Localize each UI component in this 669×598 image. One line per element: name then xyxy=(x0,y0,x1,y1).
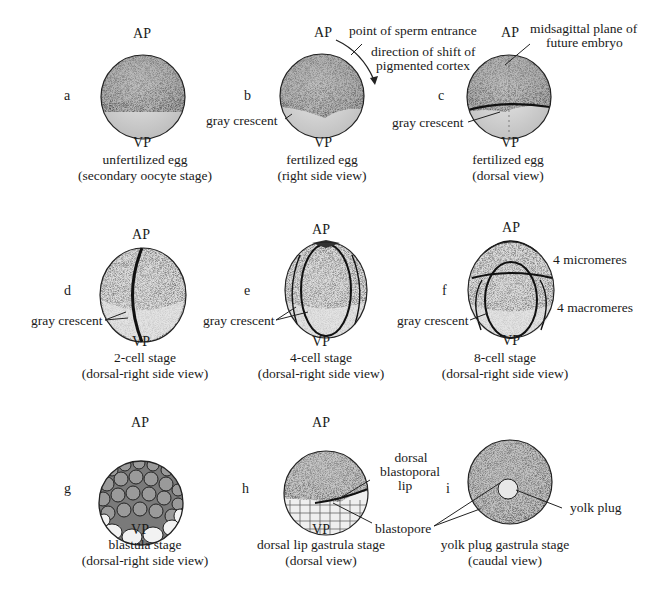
label-micromeres: 4 micromeres xyxy=(553,252,627,267)
label-lip: lip xyxy=(398,478,412,493)
panel-letter-d: d xyxy=(64,283,71,299)
panel-letter-b: b xyxy=(244,88,251,104)
label-shift-direction: direction of shift of xyxy=(371,44,476,59)
panel-letter-c: c xyxy=(438,88,444,104)
egg-unfertilized xyxy=(100,50,190,140)
label-future-embryo: future embryo xyxy=(546,35,623,50)
embryo-8-cell xyxy=(468,241,554,338)
label-yolk-plug: yolk plug xyxy=(570,500,621,515)
caption-g: blastula stage (dorsal-right side view) xyxy=(82,537,209,569)
label-macromeres: 4 macromeres xyxy=(557,300,633,315)
embryo-2-cell xyxy=(100,248,186,342)
animal-pole-label: AP xyxy=(314,25,332,40)
vegetal-pole-label: VP xyxy=(312,334,330,349)
label-dorsal: dorsal xyxy=(387,450,435,465)
panel-letter-h: h xyxy=(242,481,249,497)
caption-d: 2-cell stage (dorsal-right side view) xyxy=(82,350,209,382)
animal-pole-label: AP xyxy=(133,26,151,41)
animal-pole-label: AP xyxy=(132,227,150,242)
animal-pole-label: AP xyxy=(312,222,330,237)
egg-fertilized-side xyxy=(275,40,378,145)
caption-a: unfertilized egg (secondary oocyte stage… xyxy=(78,152,212,184)
panel-letter-i: i xyxy=(446,481,450,497)
vegetal-pole-label: VP xyxy=(133,135,151,150)
embryo-illustrations xyxy=(0,0,669,598)
label-gray-crescent: gray crescent xyxy=(206,113,278,128)
panel-letter-f: f xyxy=(442,283,447,299)
animal-pole-label: AP xyxy=(131,415,149,430)
label-blastopore: blastopore xyxy=(375,521,431,536)
caption-e: 4-cell stage (dorsal-right side view) xyxy=(258,350,385,382)
panel-letter-a: a xyxy=(64,88,70,104)
label-pigmented-cortex: pigmented cortex xyxy=(376,58,470,73)
vegetal-pole-label: VP xyxy=(131,522,149,537)
label-sperm-entrance: point of sperm entrance xyxy=(349,23,477,38)
label-gray-crescent: gray crescent xyxy=(203,313,275,328)
label-blastoporal: blastoporal xyxy=(380,464,440,479)
animal-pole-label: AP xyxy=(502,220,520,235)
vegetal-pole-label: VP xyxy=(132,334,150,349)
embryo-yolk-plug-gastrula xyxy=(434,440,562,526)
animal-pole-label: AP xyxy=(501,25,519,40)
caption-h: dorsal lip gastrula stage (dorsal view) xyxy=(257,537,385,569)
label-gray-crescent: gray crescent xyxy=(392,115,464,130)
vegetal-pole-label: VP xyxy=(501,135,519,150)
vegetal-pole-label: VP xyxy=(312,522,330,537)
label-midsagittal-plane: midsagittal plane of xyxy=(530,21,637,36)
panel-letter-g: g xyxy=(64,481,71,497)
caption-c: fertilized egg (dorsal view) xyxy=(472,152,544,184)
label-gray-crescent: gray crescent xyxy=(31,313,103,328)
caption-i: yolk plug gastrula stage (caudal view) xyxy=(441,537,570,569)
vegetal-pole-label: VP xyxy=(314,135,332,150)
label-gray-crescent: gray crescent xyxy=(397,313,469,328)
animal-pole-label: AP xyxy=(312,415,330,430)
vegetal-pole-label: VP xyxy=(502,333,520,348)
egg-fertilized-dorsal xyxy=(465,44,555,145)
caption-b: fertilized egg (right side view) xyxy=(277,152,366,184)
embryo-4-cell xyxy=(276,240,367,338)
caption-f: 8-cell stage (dorsal-right side view) xyxy=(442,350,569,382)
panel-letter-e: e xyxy=(244,283,250,299)
